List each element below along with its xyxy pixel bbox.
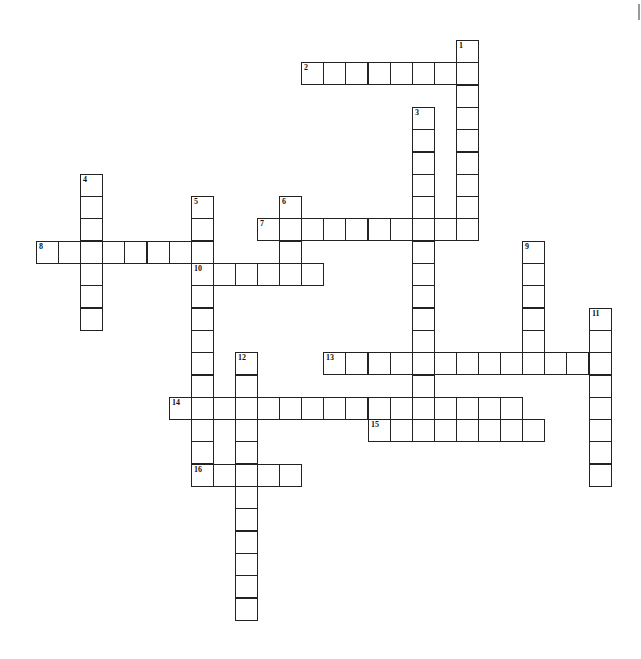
crossword-cell[interactable] <box>412 62 435 85</box>
crossword-cell[interactable] <box>235 263 258 286</box>
crossword-cell[interactable] <box>235 553 258 576</box>
crossword-cell[interactable] <box>58 241 81 264</box>
crossword-cell[interactable] <box>589 397 612 420</box>
crossword-cell[interactable] <box>235 575 258 598</box>
crossword-cell[interactable]: 1 <box>456 40 479 63</box>
crossword-cell[interactable] <box>566 352 589 375</box>
crossword-cell[interactable] <box>279 397 302 420</box>
crossword-cell[interactable] <box>213 464 236 487</box>
crossword-cell[interactable] <box>500 419 523 442</box>
crossword-cell[interactable]: 11 <box>589 308 612 331</box>
crossword-cell[interactable] <box>456 85 479 108</box>
crossword-cell[interactable] <box>412 285 435 308</box>
crossword-cell[interactable] <box>257 397 280 420</box>
crossword-cell[interactable] <box>235 508 258 531</box>
crossword-cell[interactable] <box>434 218 457 241</box>
crossword-cell[interactable] <box>235 397 258 420</box>
crossword-cell[interactable] <box>191 330 214 353</box>
crossword-cell[interactable] <box>102 241 125 264</box>
crossword-cell[interactable] <box>301 218 324 241</box>
crossword-cell[interactable] <box>323 218 346 241</box>
crossword-cell[interactable] <box>456 107 479 130</box>
crossword-cell[interactable] <box>368 397 391 420</box>
crossword-cell[interactable] <box>434 419 457 442</box>
crossword-cell[interactable] <box>434 352 457 375</box>
crossword-cell[interactable] <box>368 62 391 85</box>
crossword-cell[interactable]: 5 <box>191 196 214 219</box>
crossword-cell[interactable] <box>368 352 391 375</box>
crossword-cell[interactable] <box>279 263 302 286</box>
crossword-cell[interactable] <box>456 397 479 420</box>
crossword-cell[interactable] <box>80 263 103 286</box>
crossword-cell[interactable] <box>522 330 545 353</box>
crossword-cell[interactable] <box>124 241 147 264</box>
crossword-cell[interactable] <box>456 62 479 85</box>
crossword-cell[interactable]: 7 <box>257 218 280 241</box>
crossword-cell[interactable] <box>191 352 214 375</box>
crossword-cell[interactable] <box>191 397 214 420</box>
crossword-cell[interactable]: 8 <box>36 241 59 264</box>
crossword-cell[interactable] <box>412 218 435 241</box>
crossword-cell[interactable] <box>323 397 346 420</box>
crossword-cell[interactable] <box>412 152 435 175</box>
crossword-cell[interactable]: 13 <box>323 352 346 375</box>
crossword-cell[interactable] <box>589 352 612 375</box>
crossword-cell[interactable] <box>213 397 236 420</box>
crossword-cell[interactable] <box>456 196 479 219</box>
crossword-cell[interactable] <box>412 330 435 353</box>
crossword-cell[interactable] <box>147 241 170 264</box>
crossword-cell[interactable] <box>191 308 214 331</box>
crossword-cell[interactable] <box>191 241 214 264</box>
crossword-cell[interactable] <box>589 464 612 487</box>
crossword-cell[interactable] <box>412 419 435 442</box>
crossword-cell[interactable] <box>169 241 192 264</box>
crossword-cell[interactable] <box>522 308 545 331</box>
crossword-cell[interactable]: 14 <box>169 397 192 420</box>
crossword-cell[interactable] <box>412 352 435 375</box>
crossword-cell[interactable] <box>500 352 523 375</box>
crossword-cell[interactable] <box>279 241 302 264</box>
crossword-cell[interactable] <box>191 285 214 308</box>
crossword-cell[interactable] <box>345 62 368 85</box>
crossword-cell[interactable] <box>412 196 435 219</box>
crossword-cell[interactable] <box>412 308 435 331</box>
crossword-cell[interactable] <box>257 263 280 286</box>
crossword-cell[interactable]: 3 <box>412 107 435 130</box>
crossword-cell[interactable] <box>456 218 479 241</box>
crossword-cell[interactable] <box>544 352 567 375</box>
crossword-cell[interactable] <box>412 174 435 197</box>
crossword-cell[interactable] <box>390 218 413 241</box>
crossword-cell[interactable] <box>323 62 346 85</box>
crossword-cell[interactable] <box>191 419 214 442</box>
crossword-cell[interactable] <box>478 419 501 442</box>
crossword-cell[interactable] <box>589 330 612 353</box>
crossword-cell[interactable] <box>390 352 413 375</box>
crossword-cell[interactable]: 2 <box>301 62 324 85</box>
crossword-cell[interactable] <box>390 397 413 420</box>
crossword-cell[interactable] <box>80 196 103 219</box>
crossword-cell[interactable] <box>257 464 280 487</box>
crossword-cell[interactable] <box>235 375 258 398</box>
crossword-cell[interactable] <box>301 397 324 420</box>
crossword-cell[interactable] <box>191 218 214 241</box>
crossword-cell[interactable] <box>478 352 501 375</box>
crossword-cell[interactable] <box>235 419 258 442</box>
crossword-cell[interactable] <box>80 218 103 241</box>
crossword-cell[interactable] <box>522 263 545 286</box>
crossword-cell[interactable] <box>412 129 435 152</box>
crossword-cell[interactable] <box>456 174 479 197</box>
crossword-cell[interactable] <box>235 598 258 621</box>
crossword-cell[interactable] <box>345 352 368 375</box>
crossword-cell[interactable] <box>522 285 545 308</box>
crossword-cell[interactable] <box>279 218 302 241</box>
crossword-cell[interactable] <box>478 397 501 420</box>
crossword-cell[interactable] <box>589 441 612 464</box>
crossword-cell[interactable] <box>522 352 545 375</box>
crossword-cell[interactable] <box>235 441 258 464</box>
crossword-cell[interactable] <box>500 397 523 420</box>
crossword-cell[interactable]: 4 <box>80 174 103 197</box>
crossword-cell[interactable] <box>589 375 612 398</box>
crossword-cell[interactable] <box>235 486 258 509</box>
crossword-cell[interactable] <box>213 263 236 286</box>
crossword-cell[interactable] <box>301 263 324 286</box>
